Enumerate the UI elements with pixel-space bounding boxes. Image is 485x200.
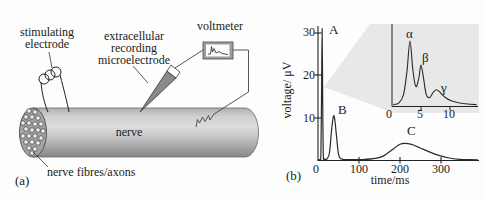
panel-b-tag: (b) xyxy=(286,169,301,182)
microelectrode-needle xyxy=(140,71,176,112)
recording-electrode-label-line3: microelectrode xyxy=(95,54,173,67)
inset-peak-beta-label: β xyxy=(422,51,429,64)
stimulating-label-pointer xyxy=(49,52,52,68)
stimulating-electrode-label-line2: electrode xyxy=(10,38,84,51)
inset-peak-gamma-label: γ xyxy=(441,81,447,94)
peak-c-label: C xyxy=(407,124,416,137)
voltmeter-screen xyxy=(206,45,230,57)
peak-b-label: B xyxy=(338,103,347,116)
recording-label-pointer xyxy=(133,66,148,83)
inset-x-tick-0: 0 xyxy=(383,108,395,121)
inset-x-tick-10: 10 xyxy=(441,108,457,121)
y-tick-10: 10 xyxy=(293,112,315,125)
y-tick-30: 30 xyxy=(293,26,315,39)
x-axis-title: time/ms xyxy=(356,174,424,187)
x-tick-300: 300 xyxy=(428,163,454,176)
nerve-fibres-label: nerve fibres/axons xyxy=(47,166,135,179)
inset-peak-alpha-label: α xyxy=(406,27,413,40)
inset-x-tick-5: 5 xyxy=(414,108,426,121)
peak-a-label: A xyxy=(329,23,338,36)
nerve-label: nerve xyxy=(105,126,153,139)
voltmeter-label: voltmeter xyxy=(186,20,254,33)
y-axis-title: voltage/ μV xyxy=(280,58,294,122)
panel-a-tag: (a) xyxy=(15,174,29,187)
microelectrode-wire xyxy=(175,50,203,68)
stimulating-coil xyxy=(39,67,69,112)
figure: stimulating electrode extracellular reco… xyxy=(0,0,485,200)
x-tick-0: 0 xyxy=(306,163,326,176)
y-tick-20: 20 xyxy=(293,69,315,82)
